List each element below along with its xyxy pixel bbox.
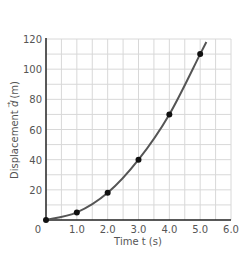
x-tick-label: 5.0	[192, 224, 208, 235]
x-tick-label: 6.0	[223, 224, 239, 235]
y-axis-label: Displacement d→ (m)	[5, 81, 20, 179]
y-tick-label: 120	[23, 34, 42, 45]
y-tick-label: 40	[29, 155, 42, 166]
x-tick-label: 2.0	[100, 224, 116, 235]
x-tick-label: 0	[35, 224, 41, 235]
data-point	[105, 190, 111, 196]
y-tick-labels: 20406080100120	[23, 34, 42, 196]
x-tick-label: 3.0	[131, 224, 147, 235]
y-tick-label: 60	[29, 125, 42, 136]
data-point	[136, 157, 142, 163]
y-axis-label-prefix: Displacement	[9, 107, 20, 179]
grid	[46, 39, 231, 220]
displacement-time-chart: 20406080100120 01.02.03.04.05.06.0 Time …	[0, 0, 240, 256]
data-point	[74, 209, 80, 215]
x-tick-label: 1.0	[69, 224, 85, 235]
data-point	[43, 217, 49, 223]
x-axis-label: Time t (s)	[113, 236, 162, 247]
data-point	[197, 51, 203, 57]
data-point	[166, 111, 172, 117]
y-tick-label: 80	[29, 94, 42, 105]
y-axis-label-suffix: (m)	[9, 81, 20, 102]
y-tick-label: 20	[29, 185, 42, 196]
y-tick-label: 100	[23, 64, 42, 75]
x-tick-label: 4.0	[161, 224, 177, 235]
x-tick-labels: 01.02.03.04.05.06.0	[35, 224, 239, 235]
